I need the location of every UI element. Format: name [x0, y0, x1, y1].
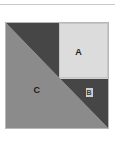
region-a-label: A: [75, 48, 82, 57]
figure-page: A B C: [0, 0, 115, 146]
geometric-figure: A B C: [5, 22, 109, 129]
region-c-label: C: [34, 86, 41, 95]
region-a-square: [59, 23, 108, 78]
region-b-label: B: [86, 88, 93, 97]
horizontal-rule: [0, 4, 115, 5]
